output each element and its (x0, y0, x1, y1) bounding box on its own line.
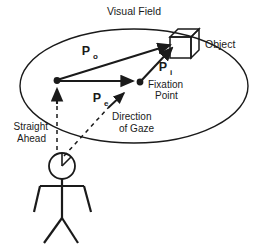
fixation-point-label-line2: Point (155, 90, 178, 101)
straight-ahead-label-line1: Straight (14, 121, 49, 132)
vector-po-base: P (82, 44, 90, 58)
observer-arm-left (34, 186, 40, 212)
vector-pi-subscript: i (170, 68, 172, 77)
observer-arm-right (84, 186, 91, 212)
visual-field-diagram: Visual Field Object P o P e P i Fixation… (0, 0, 264, 244)
observer-eye-mark (62, 157, 71, 166)
fixation-point-label-line1: Fixation (148, 79, 183, 90)
vector-pe-label: P e (93, 91, 109, 108)
vector-pe-subscript: e (104, 99, 109, 108)
object-cube (170, 29, 199, 58)
vector-pi-label: P i (159, 60, 172, 77)
observer-leg-left (44, 218, 62, 243)
diagram-canvas: Visual Field Object P o P e P i Fixation… (0, 0, 264, 244)
observer-stick-figure (34, 153, 91, 243)
object-label: Object (205, 38, 235, 50)
direction-of-gaze-label-line1: Direction (112, 111, 151, 122)
fixation-point-dot (137, 79, 144, 86)
vector-po-line (57, 45, 170, 80)
vector-po-label: P o (82, 44, 98, 61)
vector-pe-base: P (93, 91, 101, 105)
direction-of-gaze-label-line2: of Gaze (119, 123, 154, 134)
vector-pi-base: P (159, 60, 167, 74)
visual-field-label: Visual Field (107, 5, 161, 17)
direction-of-gaze-arrow (108, 93, 124, 108)
direction-of-gaze-dashed-line (64, 108, 108, 156)
vector-po-subscript: o (93, 52, 98, 61)
straight-ahead-label-line2: Ahead (17, 133, 46, 144)
eye-origin-point (54, 77, 61, 84)
observer-leg-right (62, 218, 78, 243)
